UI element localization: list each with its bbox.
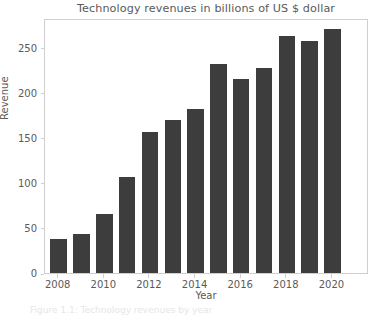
x-axis-tick-label: 2016 — [218, 279, 262, 290]
tick-mark — [41, 274, 45, 275]
bar — [279, 36, 295, 273]
tick-mark — [148, 274, 149, 278]
bar — [187, 109, 203, 273]
y-axis-label: Revenue — [0, 76, 10, 120]
y-axis-tick-label: 50 — [24, 222, 37, 236]
figure-caption: Figure 1.1: Technology revenues by year — [30, 305, 360, 315]
bar — [165, 120, 181, 273]
y-axis-tick-label: 100 — [18, 177, 37, 191]
tick-mark — [103, 274, 104, 278]
tick-mark — [240, 274, 241, 278]
bar — [301, 41, 317, 273]
x-axis-tick-label: 2012 — [127, 279, 171, 290]
y-axis-tick-label: 150 — [18, 132, 37, 146]
tick-mark — [41, 93, 45, 94]
bar — [73, 234, 89, 273]
bar-series — [45, 20, 367, 273]
chart-title: Technology revenues in billions of US $ … — [44, 2, 368, 15]
y-axis-tick-label: 200 — [18, 87, 37, 101]
x-axis-tick-label: 2014 — [173, 279, 217, 290]
bar — [233, 79, 249, 273]
x-axis-tick-label: 2010 — [81, 279, 125, 290]
bar — [96, 214, 112, 273]
bar — [50, 239, 66, 273]
tick-mark — [41, 183, 45, 184]
tick-mark — [41, 138, 45, 139]
x-axis-tick-label: 2020 — [309, 279, 353, 290]
bar — [119, 177, 135, 273]
bar — [142, 132, 158, 273]
tick-mark — [194, 274, 195, 278]
tick-mark — [57, 274, 58, 278]
tick-mark — [41, 228, 45, 229]
tick-mark — [41, 48, 45, 49]
tick-mark — [285, 274, 286, 278]
bar — [256, 68, 272, 273]
bar — [210, 64, 226, 273]
x-axis-tick-label: 2008 — [36, 279, 80, 290]
tick-mark — [331, 274, 332, 278]
x-axis-tick-label: 2018 — [264, 279, 308, 290]
y-axis-tick-label: 250 — [18, 42, 37, 56]
x-axis-label: Year — [44, 290, 368, 301]
bar — [324, 29, 340, 273]
plot-area — [44, 19, 368, 274]
